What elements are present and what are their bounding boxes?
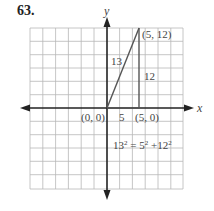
y-axis-down-arrow-icon: [104, 190, 111, 200]
point-label-origin: (0, 0): [81, 111, 105, 124]
y-axis-label: y: [103, 4, 110, 18]
x-axis-left-arrow-icon: [20, 105, 30, 112]
horizontal-side-label: 5: [119, 111, 125, 123]
coordinate-plane: x y (5, 12) (0, 0) (5, 0) 13 12 5 132 = …: [0, 0, 214, 211]
x-axis-label: x: [196, 101, 203, 115]
hypotenuse-label: 13: [111, 55, 123, 67]
point-label-base: (5, 0): [135, 111, 159, 124]
vertical-side-label: 12: [144, 70, 155, 82]
x-axis-right-arrow-icon: [184, 105, 194, 112]
point-label-top: (5, 12): [142, 28, 172, 41]
y-axis-up-arrow-icon: [104, 17, 111, 27]
pythagorean-equation: 132 = 52 +122: [113, 139, 172, 151]
